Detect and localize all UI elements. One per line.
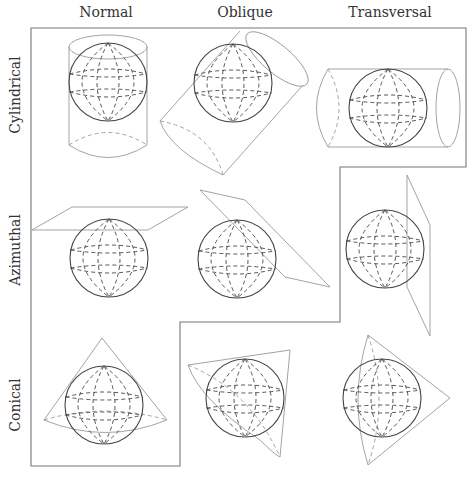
azimuthal-normal [32, 207, 188, 297]
conical-oblique [188, 350, 290, 457]
conical-normal [44, 338, 167, 444]
conical-transversal [343, 335, 450, 465]
cylindrical-normal [69, 35, 147, 158]
azimuthal-oblique [198, 190, 330, 298]
projection-diagram [0, 0, 476, 479]
cylindrical-oblique [160, 23, 316, 175]
azimuthal-transversal [346, 175, 430, 336]
cylindrical-transversal [317, 69, 461, 147]
